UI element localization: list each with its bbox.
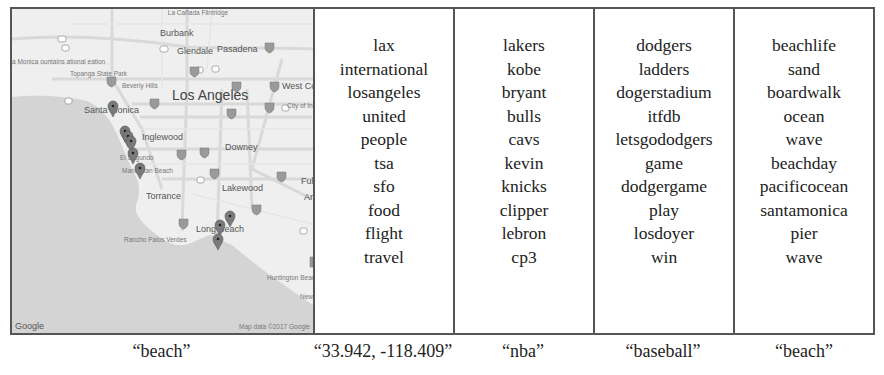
caption-beach: “beach” bbox=[733, 339, 875, 369]
word-item: pier bbox=[790, 222, 817, 246]
map-label-downey: Downey bbox=[225, 142, 258, 152]
word-item: clipper bbox=[500, 199, 549, 223]
word-item: dogerstadium bbox=[616, 81, 711, 105]
map-label-rancho-palos-verdes: Rancho Palos Verdes bbox=[124, 236, 187, 243]
word-list-lax: lax international losangeles united peop… bbox=[315, 9, 455, 333]
word-item: ocean bbox=[784, 105, 825, 129]
word-item: kevin bbox=[505, 152, 544, 176]
map-label-huntington-beach: Huntington Beach bbox=[267, 274, 313, 282]
word-item: losdoyer bbox=[634, 222, 694, 246]
word-item: people bbox=[361, 128, 408, 152]
map-label-city-of-industry: City of Industry bbox=[287, 102, 313, 110]
word-item: letsgododgers bbox=[615, 128, 712, 152]
figure-panel-row: La Cañada Flintridge Burbank Glendale Pa… bbox=[10, 7, 875, 335]
word-item: wave bbox=[786, 246, 823, 270]
word-item: tsa bbox=[374, 152, 393, 176]
map-label-topanga: Topanga State Park bbox=[70, 70, 128, 78]
google-logo: Google bbox=[15, 321, 44, 331]
map-label-beverly-hills: Beverly Hills bbox=[122, 82, 159, 90]
map-label-burbank: Burbank bbox=[160, 28, 194, 38]
word-item: flight bbox=[365, 222, 403, 246]
map-image: La Cañada Flintridge Burbank Glendale Pa… bbox=[12, 9, 313, 333]
word-item: santamonica bbox=[760, 199, 847, 223]
map-label-glendale: Glendale bbox=[177, 46, 213, 56]
map-label-anaheim: Anah bbox=[304, 192, 313, 202]
word-item: play bbox=[649, 199, 679, 223]
word-item: sand bbox=[788, 58, 820, 82]
word-item: lax bbox=[373, 34, 394, 58]
word-item: wave bbox=[786, 128, 823, 152]
map-label-torrance: Torrance bbox=[146, 191, 181, 201]
word-item: cavs bbox=[508, 128, 539, 152]
word-item: boardwalk bbox=[767, 81, 841, 105]
map-label-pasadena: Pasadena bbox=[217, 44, 258, 54]
caption-row: “beach” “33.942, -118.409” “nba” “baseba… bbox=[10, 339, 875, 369]
word-item: itfdb bbox=[647, 105, 680, 129]
word-item: losangeles bbox=[348, 81, 421, 105]
word-item: kobe bbox=[507, 58, 541, 82]
word-item: lebron bbox=[502, 222, 547, 246]
caption-map-query: “beach” bbox=[10, 339, 313, 369]
map-label-newport-beach: Newpo Beach bbox=[300, 293, 313, 301]
map-label-los-angeles: Los Angeles bbox=[172, 87, 248, 103]
word-list-baseball: dodgers ladders dogerstadium itfdb letsg… bbox=[595, 9, 735, 333]
word-item: beachlife bbox=[772, 34, 836, 58]
map-attribution: Map data ©2017 Google bbox=[239, 323, 310, 331]
word-item: dodgergame bbox=[621, 175, 707, 199]
word-item: knicks bbox=[501, 175, 547, 199]
word-item: cp3 bbox=[511, 246, 536, 270]
caption-nba: “nba” bbox=[453, 339, 593, 369]
word-item: travel bbox=[364, 246, 404, 270]
map-label-fullerton: Fullert bbox=[301, 176, 313, 186]
word-item: united bbox=[362, 105, 406, 129]
map-label-santa-monica-mountains: a Monica ountains ational eation bbox=[12, 58, 106, 65]
map-label-manhattan-beach: Manhattan Beach bbox=[122, 167, 173, 174]
map-panel: La Cañada Flintridge Burbank Glendale Pa… bbox=[12, 9, 315, 333]
word-item: international bbox=[340, 58, 428, 82]
word-item: bulls bbox=[507, 105, 541, 129]
word-item: bryant bbox=[502, 81, 547, 105]
map-label-west-covina: West Cov bbox=[282, 81, 313, 91]
word-item: lakers bbox=[503, 34, 545, 58]
map-label-inglewood: Inglewood bbox=[142, 132, 183, 142]
word-item: dodgers bbox=[636, 34, 691, 58]
word-item: win bbox=[651, 246, 677, 270]
word-item: food bbox=[368, 199, 400, 223]
caption-baseball: “baseball” bbox=[593, 339, 733, 369]
word-item: pacificocean bbox=[760, 175, 848, 199]
word-list-nba: lakers kobe bryant bulls cavs kevin knic… bbox=[455, 9, 595, 333]
word-item: ladders bbox=[639, 58, 690, 82]
map-label-lakewood: Lakewood bbox=[222, 183, 263, 193]
word-item: beachday bbox=[771, 152, 837, 176]
map-label-la-canada: La Cañada Flintridge bbox=[168, 9, 229, 17]
word-item: game bbox=[645, 152, 683, 176]
caption-coordinates: “33.942, -118.409” bbox=[313, 339, 453, 369]
word-list-beach: beachlife sand boardwalk ocean wave beac… bbox=[735, 9, 873, 333]
word-item: sfo bbox=[373, 175, 394, 199]
